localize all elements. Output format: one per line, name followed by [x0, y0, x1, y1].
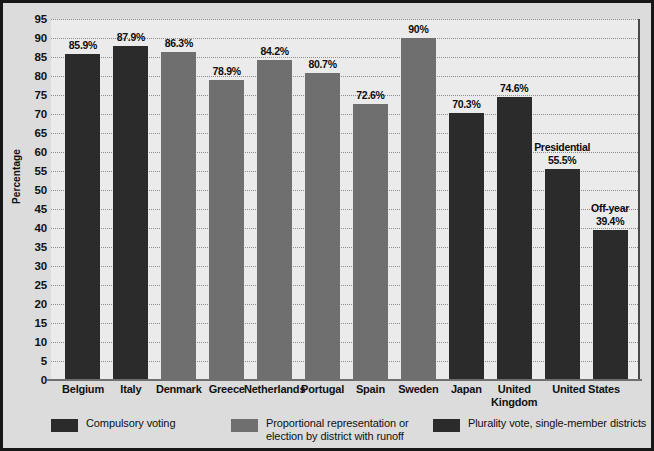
y-axis-tick-label: 50	[7, 184, 47, 196]
x-axis-label-line: Kingdom	[491, 396, 537, 408]
legend-label: Proportional representation or election …	[266, 417, 409, 443]
bar	[209, 80, 244, 380]
bar	[593, 230, 628, 380]
bar	[65, 54, 100, 380]
bar-value-label: 86.3%	[144, 37, 214, 49]
x-axis-label: United States	[538, 383, 634, 396]
legend-label: Plurality vote, single-member districts	[468, 417, 646, 430]
bar	[449, 113, 484, 380]
y-axis-tick-label: 85	[7, 51, 47, 63]
bar-sublabel: Off-year	[570, 202, 650, 214]
bar	[353, 104, 388, 380]
y-axis-tick-label: 35	[7, 241, 47, 253]
legend-swatch	[433, 419, 460, 432]
y-axis-tick-label: 10	[7, 336, 47, 348]
y-axis-tick-label: 80	[7, 70, 47, 82]
legend-item[interactable]: Plurality vote, single-member districts	[433, 417, 646, 432]
x-axis-line	[47, 379, 642, 381]
bar-value-label: 80.7%	[288, 58, 358, 70]
bar-sublabel: Presidential	[522, 141, 602, 153]
legend-item[interactable]: Compulsory voting	[51, 417, 175, 432]
bar	[113, 46, 148, 380]
y-axis-tick-label: 30	[7, 260, 47, 272]
bar	[257, 60, 292, 380]
bar-value-label: 55.5%	[527, 154, 597, 166]
y-axis-tick-label: 15	[7, 317, 47, 329]
legend-swatch	[51, 419, 78, 432]
bar-value-label: 78.9%	[192, 65, 262, 77]
bar	[497, 97, 532, 380]
x-axis-label-line: United	[498, 383, 531, 395]
bar-value-label: 74.6%	[479, 82, 549, 94]
y-axis-tick-label: 55	[7, 165, 47, 177]
chart-legend: Compulsory votingProportional representa…	[3, 411, 651, 447]
y-axis-ticks: 95908580757065605550454035302520151050	[3, 19, 47, 380]
y-axis-tick-label: 95	[7, 13, 47, 25]
plot-area: 85.9%87.9%86.3%78.9%84.2%80.7%72.6%90%70…	[51, 19, 640, 380]
y-axis-tick-label: 5	[7, 355, 47, 367]
y-axis-tick-label: 70	[7, 108, 47, 120]
y-axis-tick-label: 65	[7, 127, 47, 139]
y-axis-tick-label: 40	[7, 222, 47, 234]
bar-value-label: 84.2%	[240, 45, 310, 57]
y-axis-tick-label: 20	[7, 298, 47, 310]
bar-value-label: 70.3%	[431, 98, 501, 110]
y-axis-tick-label: 25	[7, 279, 47, 291]
chart-figure: Percentage 95908580757065605550454035302…	[0, 0, 654, 451]
gridline	[51, 19, 638, 20]
bar	[305, 73, 340, 380]
y-axis-tick-label: 60	[7, 146, 47, 158]
y-axis-tick-label: 75	[7, 89, 47, 101]
y-axis-tick-label: 45	[7, 203, 47, 215]
bar-value-label: 90%	[383, 23, 453, 35]
legend-item[interactable]: Proportional representation or election …	[231, 417, 409, 443]
bar	[161, 52, 196, 380]
legend-swatch	[231, 419, 258, 432]
x-axis-label-line: United States	[552, 383, 620, 395]
bar-value-label: 72.6%	[335, 89, 405, 101]
bar-value-label: 39.4%	[575, 215, 645, 227]
bar	[401, 38, 436, 380]
legend-label: Compulsory voting	[86, 417, 175, 430]
y-axis-tick-label: 90	[7, 32, 47, 44]
bar	[545, 169, 580, 380]
